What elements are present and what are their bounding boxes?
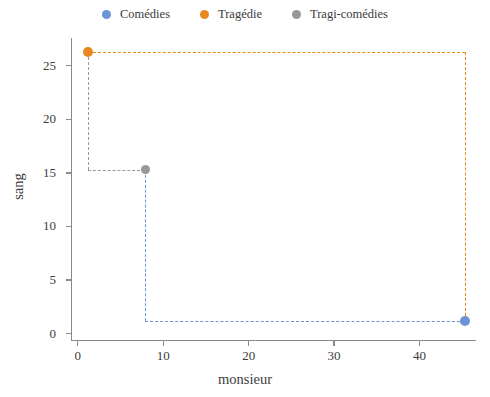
legend-entry-tragedie[interactable]: Tragédie [200,8,262,21]
y-tick-mark [66,333,71,334]
data-point-comedies[interactable] [460,316,470,326]
legend-label-comedies: Comédies [120,8,170,21]
x-tick-label: 40 [399,349,439,362]
circle-marker-comedies-icon [102,10,111,19]
guide-tragedie-vertical [465,52,466,321]
y-tick-label: 25 [14,59,56,72]
legend-entry-tragi-comedies[interactable]: Tragi-comédies [292,8,388,21]
y-tick-mark [66,119,71,120]
x-tick-label: 0 [58,349,98,362]
x-tick-mark [248,341,249,346]
y-tick-label: 0 [14,327,56,340]
x-tick-label: 30 [314,349,354,362]
y-tick-mark [66,65,71,66]
circle-marker-tragi-comedies-icon [292,10,301,19]
legend-label-tragedie: Tragédie [218,8,262,21]
y-axis-spine [71,38,72,341]
x-tick-mark [163,341,164,346]
x-axis-spine [71,340,476,341]
guide-comedies-vertical [145,170,146,321]
x-tick-mark [333,341,334,346]
legend-label-tragi-comedies: Tragi-comédies [310,8,388,21]
y-axis-title: sang [10,147,27,227]
guide-tragi-comedies-horizontal [88,170,145,171]
guide-tragi-comedies-vertical [88,52,89,170]
data-point-tragedie[interactable] [83,47,93,57]
x-axis-title: monsieur [0,371,490,388]
y-tick-mark [66,226,71,227]
chart-figure: Comédies Tragédie Tragi-comédies 0510152… [0,0,490,397]
guide-comedies-horizontal [145,321,464,322]
circle-marker-tragedie-icon [200,10,209,19]
guide-tragedie-horizontal [88,52,465,53]
y-tick-mark [66,279,71,280]
x-tick-mark [77,341,78,346]
chart-legend: Comédies Tragédie Tragi-comédies [0,8,490,21]
x-tick-label: 20 [229,349,269,362]
x-tick-label: 10 [143,349,183,362]
data-point-tragi-comedies[interactable] [141,165,150,174]
y-tick-mark [66,172,71,173]
legend-entry-comedies[interactable]: Comédies [102,8,170,21]
x-tick-mark [419,341,420,346]
y-tick-label: 5 [14,273,56,286]
y-tick-label: 20 [14,112,56,125]
